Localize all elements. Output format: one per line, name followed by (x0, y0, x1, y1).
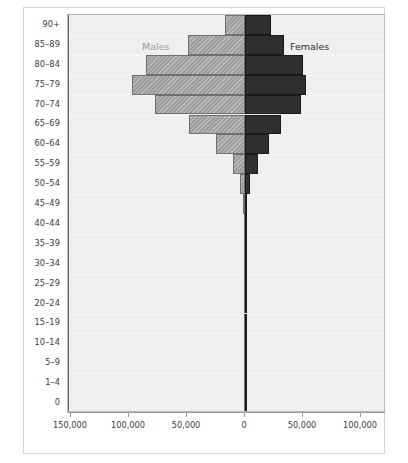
y-axis-label-80_84: 80–84 (35, 59, 60, 69)
bar-female-10_14 (245, 333, 247, 353)
bar-female-90+ (245, 15, 271, 35)
gridline (68, 333, 384, 334)
bar-female-25_29 (245, 274, 247, 294)
bar-female-50_54 (245, 174, 250, 194)
gridline (68, 214, 384, 215)
y-axis-label-1_4: 1–4 (45, 377, 60, 387)
bar-female-55_59 (245, 154, 258, 174)
x-axis-label-3: 0 (241, 420, 246, 430)
y-axis-label-75_79: 75–79 (35, 79, 60, 89)
x-axis-tick (70, 412, 71, 417)
bar-female-20_24 (245, 294, 247, 314)
y-axis-label-60_64: 60–64 (35, 138, 60, 148)
bar-male-60_64 (216, 134, 245, 154)
y-axis-label-50_54: 50–54 (35, 178, 60, 188)
bar-female-45_49 (245, 194, 247, 214)
bar-female-40_44 (245, 214, 247, 234)
chart-figure: Males Females 90+85–8980–8475–7970–7465–… (0, 0, 408, 463)
bar-male-65_69 (189, 115, 245, 135)
y-axis-label-40_44: 40–44 (35, 218, 60, 228)
center-axis-line (68, 15, 69, 411)
x-axis-label-0: 150,000 (53, 420, 87, 430)
bar-female-35_39 (245, 234, 247, 254)
y-axis-label-5_9: 5–9 (45, 357, 60, 367)
y-axis-label-15_19: 15–19 (35, 317, 60, 327)
y-axis-label-90+: 90+ (42, 19, 60, 29)
bar-female-15_19 (245, 314, 247, 334)
y-axis-label-45_49: 45–49 (35, 198, 60, 208)
x-axis-tick (244, 412, 245, 417)
gridline (68, 194, 384, 195)
y-axis-label-25_29: 25–29 (35, 278, 60, 288)
bar-male-85_89 (188, 35, 245, 55)
x-axis-tick (186, 412, 187, 417)
bar-female-1_4 (245, 373, 247, 393)
bar-male-70_74 (155, 95, 245, 115)
bar-female-5_9 (245, 353, 247, 373)
bar-male-75_79 (132, 75, 245, 95)
x-axis-line (67, 412, 385, 413)
y-axis-label-65_69: 65–69 (35, 118, 60, 128)
gridline (68, 393, 384, 394)
bar-female-0 (245, 393, 247, 412)
gridline (68, 274, 384, 275)
y-axis-label-10_14: 10–14 (35, 337, 60, 347)
bar-female-65_69 (245, 115, 281, 135)
x-axis-tick (128, 412, 129, 417)
y-axis-label-70_74: 70–74 (35, 99, 60, 109)
x-axis-label-1: 100,000 (111, 420, 145, 430)
bar-female-70_74 (245, 95, 301, 115)
gridline (68, 373, 384, 374)
bar-female-75_79 (245, 75, 306, 95)
x-axis-tick (302, 412, 303, 417)
x-axis-label-4: 50,000 (288, 420, 317, 430)
plot-area: Males Females (67, 14, 385, 412)
legend-label-females: Females (290, 41, 329, 52)
x-axis-tick (360, 412, 361, 417)
y-axis-label-30_34: 30–34 (35, 258, 60, 268)
x-axis-label-5: 100,000 (343, 420, 377, 430)
y-axis-label-85_89: 85–89 (35, 39, 60, 49)
bar-female-80_84 (245, 55, 303, 75)
bar-male-90+ (225, 15, 245, 35)
gridline (68, 314, 384, 315)
gridline (68, 294, 384, 295)
gridline (68, 154, 384, 155)
y-axis-label-35_39: 35–39 (35, 238, 60, 248)
legend-label-males: Males (142, 41, 169, 52)
gridline (68, 254, 384, 255)
y-axis-label-20_24: 20–24 (35, 298, 60, 308)
bar-female-85_89 (245, 35, 284, 55)
gridline (68, 174, 384, 175)
x-axis-label-2: 50,000 (172, 420, 201, 430)
y-axis-labels: 90+85–8980–8475–7970–7465–6960–6455–5950… (23, 14, 67, 412)
y-axis-label-55_59: 55–59 (35, 158, 60, 168)
gridline (68, 234, 384, 235)
y-axis-label-0: 0 (55, 397, 60, 407)
bar-male-80_84 (146, 55, 245, 75)
bar-female-30_34 (245, 254, 247, 274)
gridline (68, 353, 384, 354)
bar-male-55_59 (233, 154, 245, 174)
bar-female-60_64 (245, 134, 269, 154)
